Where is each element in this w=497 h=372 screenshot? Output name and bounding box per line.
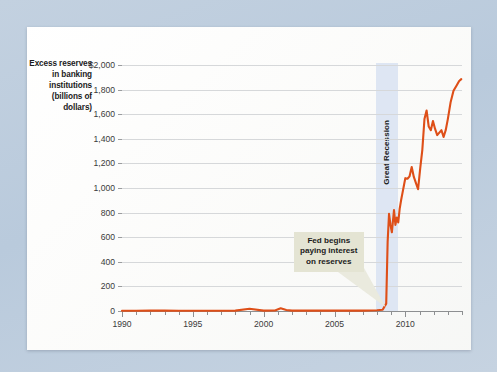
- y-axis-tick-label: 1,800: [93, 85, 115, 95]
- x-axis-minor-tick: [391, 311, 392, 315]
- y-axis-tick-label: 1,000: [93, 183, 115, 193]
- x-axis-minor-tick: [420, 311, 421, 315]
- x-axis-major-tick: [264, 311, 265, 317]
- x-axis-major-tick: [193, 311, 194, 317]
- x-axis-minor-tick: [278, 311, 279, 315]
- y-axis-title-line-3: institutions: [8, 80, 92, 91]
- y-axis-tick-label: 200: [101, 281, 115, 291]
- x-axis-minor-tick: [377, 311, 378, 315]
- x-axis-major-tick: [405, 311, 406, 317]
- callout-line-1: Fed begins: [300, 236, 358, 246]
- x-axis-tick-label: 2000: [254, 319, 273, 329]
- x-axis-tick-label: 2010: [396, 319, 415, 329]
- y-axis-tick-label: 800: [101, 208, 115, 218]
- page-background: Excess reserves in banking institutions …: [0, 0, 497, 372]
- plot-area: Great Recession 02004006008001,0001,2001…: [122, 65, 462, 311]
- fed-interest-callout: Fed begins paying interest on reserves: [294, 232, 364, 272]
- y-axis-title-line-4: (billions of: [8, 91, 92, 102]
- x-axis-minor-tick: [462, 311, 463, 315]
- x-axis-minor-tick: [434, 311, 435, 315]
- y-axis-tick-label: 600: [101, 232, 115, 242]
- y-axis-title-line-1: Excess reserves: [8, 58, 92, 69]
- x-axis-minor-tick: [448, 311, 449, 315]
- y-axis-title-line-2: in banking: [8, 69, 92, 80]
- callout-line-3: on reserves: [300, 257, 358, 267]
- x-axis-major-tick: [335, 311, 336, 317]
- y-axis-tick-label: 0: [110, 306, 115, 316]
- callout-pointer-tail: [122, 65, 462, 311]
- x-axis-major-tick: [122, 311, 123, 317]
- y-axis-tick-label: 400: [101, 257, 115, 267]
- x-axis-minor-tick: [250, 311, 251, 315]
- y-axis-title: Excess reserves in banking institutions …: [8, 58, 92, 113]
- callout-line-2: paying interest: [300, 246, 358, 256]
- y-axis-tick-label: 1,600: [93, 109, 115, 119]
- y-axis-tick-label: 1,400: [93, 134, 115, 144]
- y-axis-tick-label: $2,000: [89, 60, 115, 70]
- x-axis-tick-label: 1990: [112, 319, 131, 329]
- y-axis-title-line-5: dollars): [8, 102, 92, 113]
- x-axis-tick-label: 2005: [325, 319, 344, 329]
- x-axis-tick-label: 1995: [183, 319, 202, 329]
- y-axis-tick-label: 1,200: [93, 158, 115, 168]
